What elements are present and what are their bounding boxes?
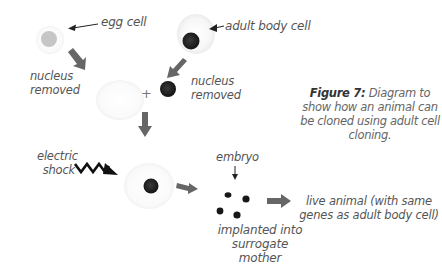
- live-animal-label: live animal (with same genes as adult bo…: [296, 194, 442, 222]
- figure-number: Figure 7:: [310, 86, 366, 100]
- embryo-icon: [217, 192, 250, 218]
- embryo-pointer-arrow-icon: [232, 166, 238, 180]
- nucleus-removed-left-label: nucleus removed: [30, 69, 80, 97]
- adult-body-cell-icon: [177, 14, 215, 54]
- enucleated-egg-icon: [96, 80, 144, 120]
- figure-caption: Figure 7: Diagram to show how an animal …: [300, 86, 440, 142]
- fusion-down-arrow-icon: [138, 112, 152, 137]
- electric-shock-label: electric shock: [37, 149, 75, 177]
- implanted-label: implanted into surrogate mother: [212, 223, 308, 265]
- adult-nucleus-icon: [160, 81, 176, 97]
- egg-cell-label: egg cell: [101, 15, 146, 29]
- fused-cell-icon: [124, 163, 174, 209]
- plus-sign: +: [141, 87, 152, 101]
- electric-shock-icon: [75, 163, 118, 175]
- egg-cell-icon: [36, 26, 64, 54]
- nucleus-removed-right-label: nucleus removed: [191, 74, 241, 102]
- to-live-animal-arrow-icon: [267, 194, 291, 208]
- egg-cell-pointer-arrow-icon: [68, 24, 98, 31]
- adult-body-cell-label: adult body cell: [225, 19, 311, 33]
- to-embryo-arrow-icon: [176, 183, 198, 194]
- embryo-label: embryo: [216, 150, 259, 164]
- nucleus-removal-arrow-adult-icon: [167, 58, 187, 78]
- nucleus-removal-arrow-egg-icon: [68, 48, 86, 70]
